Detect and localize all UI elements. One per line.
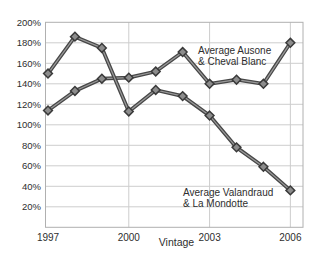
annotation-ausone-line1: Average Ausone: [198, 45, 272, 56]
y-tick-label-60: 60%: [22, 160, 42, 171]
y-tick-label-180: 180%: [17, 37, 42, 48]
chart-canvas: 20%40%60%80%100%120%140%160%180%200%1997…: [0, 0, 311, 264]
x-tick-label-1997: 1997: [37, 232, 60, 243]
y-tick-label-100: 100%: [17, 119, 42, 130]
ausone-cheval-blanc-marker-2000: [124, 73, 133, 82]
line-chart: 20%40%60%80%100%120%140%160%180%200%1997…: [0, 0, 311, 264]
y-tick-label-140: 140%: [17, 78, 42, 89]
annotation-valandraud-label: Average Valandraud & La Mondotte: [183, 187, 273, 209]
x-tick-label-2006: 2006: [279, 232, 302, 243]
y-tick-label-200: 200%: [17, 17, 42, 28]
x-tick-label-2000: 2000: [118, 232, 141, 243]
y-tick-label-80: 80%: [22, 140, 42, 151]
y-tick-label-40: 40%: [22, 181, 42, 192]
x-axis-title: Vintage: [159, 236, 195, 248]
ausone-cheval-blanc-marker-2004: [232, 75, 241, 84]
y-tick-label-20: 20%: [22, 201, 42, 212]
y-tick-label-160: 160%: [17, 58, 42, 69]
y-tick-label-120: 120%: [17, 99, 42, 110]
annotation-ausone-label: Average Ausone & Cheval Blanc: [198, 45, 272, 67]
annotation-valandraud-line1: Average Valandraud: [183, 187, 273, 198]
annotation-valandraud-line2: & La Mondotte: [183, 198, 248, 209]
x-tick-label-2003: 2003: [198, 232, 221, 243]
annotation-ausone-line2: & Cheval Blanc: [198, 56, 266, 67]
